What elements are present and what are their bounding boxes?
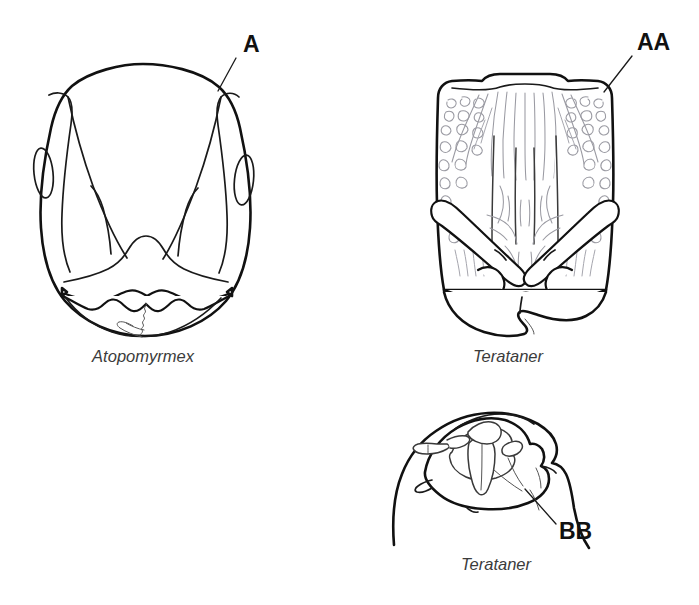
taxon-caption-atopomyrmex: Atopomyrmex [91, 347, 195, 365]
right-median-carina [534, 148, 535, 244]
taxon-caption-terataner-head: Terataner [473, 347, 545, 365]
illustration-plate: A Atopomyrmex [0, 0, 699, 605]
left-median-carina [515, 148, 516, 244]
taxon-caption-terataner-lateral: Terataner [461, 555, 533, 573]
callout-bb-label: BB [559, 518, 592, 544]
plate-canvas: A Atopomyrmex [0, 0, 699, 605]
callout-aa-label: AA [637, 29, 670, 55]
callout-a-label: A [243, 31, 260, 57]
